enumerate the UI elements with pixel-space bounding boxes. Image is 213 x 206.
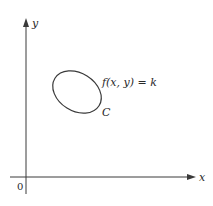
level-curve-diagram: y x 0 f(x, y) = k C xyxy=(0,0,213,206)
y-axis-label: y xyxy=(31,17,39,30)
x-axis-label: x xyxy=(199,171,206,184)
curve-label: C xyxy=(102,106,111,119)
equation-label: f(x, y) = k xyxy=(101,76,157,89)
x-axis-arrow-icon xyxy=(187,174,196,180)
level-curve-c xyxy=(45,62,109,122)
origin-label: 0 xyxy=(17,181,23,192)
y-axis-arrow-icon xyxy=(23,18,29,27)
